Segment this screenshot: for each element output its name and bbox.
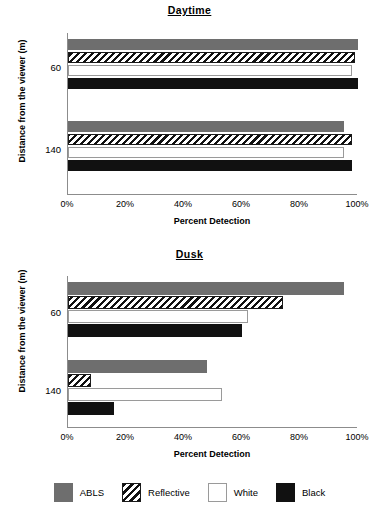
daytime-xtick-20%: 20% (116, 199, 134, 209)
chart-legend: ABLSReflectiveWhiteBlack (0, 477, 379, 507)
legend-item-abls: ABLS (54, 483, 104, 502)
dusk-bar-140-abls (68, 360, 207, 373)
legend-swatch-white (208, 483, 227, 502)
legend-swatch-abls (54, 483, 73, 502)
daytime-x-tick-labels: 0%20%40%60%80%100% (67, 199, 357, 213)
dusk-chart-panel: Dusk Distance from the viewer (m) 60 140 (0, 248, 379, 463)
daytime-xtick-40%: 40% (174, 199, 192, 209)
legend-item-reflective: Reflective (122, 483, 190, 502)
dusk-group-60: 60 (68, 282, 357, 342)
dusk-xtick-100%: 100% (345, 432, 368, 442)
chart-page: Daytime Distance from the viewer (m) 60 … (0, 0, 379, 521)
dusk-bar-60-reflective (68, 296, 283, 309)
dusk-xtick-60%: 60% (232, 432, 250, 442)
dusk-bar-60-black (68, 324, 242, 337)
daytime-ytick-60: 60 (50, 62, 61, 73)
legend-label-reflective: Reflective (148, 487, 190, 498)
daytime-bar-60-abls (68, 39, 358, 50)
daytime-xtick-0%: 0% (60, 199, 73, 209)
dusk-plot-area: 60 140 (67, 276, 357, 428)
legend-label-abls: ABLS (80, 487, 104, 498)
dusk-xtick-20%: 20% (116, 432, 134, 442)
daytime-xtick-60%: 60% (232, 199, 250, 209)
dusk-xtick-0%: 0% (60, 432, 73, 442)
daytime-y-axis-label: Distance from the viewer (m) (17, 21, 27, 181)
daytime-chart-panel: Daytime Distance from the viewer (m) 60 … (0, 0, 379, 245)
legend-item-black: Black (276, 483, 325, 502)
legend-item-white: White (208, 483, 258, 502)
daytime-xtick-80%: 80% (290, 199, 308, 209)
daytime-chart-title: Daytime (0, 4, 379, 16)
daytime-bar-140-black (68, 160, 352, 171)
daytime-bar-60-reflective (68, 52, 355, 63)
dusk-x-axis-line (67, 427, 357, 428)
daytime-bar-140-reflective (68, 134, 352, 145)
dusk-bar-140-white (68, 388, 222, 401)
daytime-xtick-100%: 100% (345, 199, 368, 209)
daytime-ytick-140: 140 (45, 144, 61, 155)
dusk-y-axis-label: Distance from the viewer (m) (17, 251, 27, 411)
daytime-group-60: 60 (68, 39, 357, 95)
dusk-xtick-80%: 80% (290, 432, 308, 442)
daytime-x-axis-line (67, 194, 357, 195)
dusk-x-axis-label: Percent Detection (67, 449, 357, 459)
legend-swatch-black (276, 483, 295, 502)
legend-label-black: Black (302, 487, 325, 498)
daytime-x-axis-label: Percent Detection (67, 216, 357, 226)
dusk-ytick-140: 140 (45, 385, 61, 396)
daytime-plot-area: 60 140 (67, 33, 357, 195)
daytime-bar-140-abls (68, 121, 344, 132)
dusk-ytick-60: 60 (50, 307, 61, 318)
daytime-group-140: 140 (68, 121, 357, 177)
legend-swatch-reflective (122, 483, 141, 502)
daytime-bar-60-black (68, 78, 358, 89)
legend-label-white: White (234, 487, 258, 498)
dusk-bar-140-reflective (68, 374, 91, 387)
dusk-chart-title: Dusk (0, 248, 379, 260)
dusk-x-tick-labels: 0%20%40%60%80%100% (67, 432, 357, 446)
daytime-bar-140-white (68, 147, 344, 158)
dusk-bar-140-black (68, 402, 114, 415)
dusk-bar-60-abls (68, 282, 344, 295)
dusk-xtick-40%: 40% (174, 432, 192, 442)
daytime-bar-60-white (68, 65, 352, 76)
dusk-group-140: 140 (68, 360, 357, 420)
dusk-bar-60-white (68, 310, 248, 323)
